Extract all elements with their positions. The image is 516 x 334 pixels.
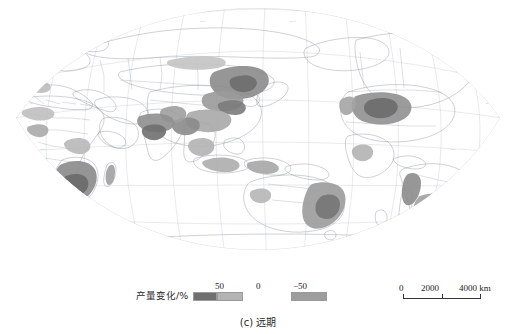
legend-swatch-loss — [291, 292, 327, 301]
svg-text:0°: 0° — [486, 102, 488, 105]
scalebar-tick-end — [480, 294, 481, 299]
svg-text:60°N: 60°N — [200, 20, 206, 23]
legend-tick-minus-50: −50 — [293, 281, 307, 291]
scalebar-label-2000: 2000 — [421, 283, 439, 293]
legend-tick-50: 50 — [215, 281, 224, 291]
legend-tick-0: 0 — [256, 281, 261, 291]
svg-text:30°S: 30°S — [40, 148, 46, 151]
svg-text:60°S: 60°S — [100, 226, 106, 229]
scalebar-label-4000km: 4000 km — [459, 283, 491, 293]
map-canvas: 60°N 60°N 60°N 60°N 0° 0° 30°S 30°S 60°S… — [0, 0, 516, 275]
svg-text:30°S: 30°S — [450, 148, 456, 151]
globe-outline — [16, 8, 500, 250]
legend-title: 产量变化/% — [136, 288, 188, 302]
data-regions — [22, 56, 459, 247]
scalebar-tick-mid — [442, 294, 443, 299]
svg-text:60°N: 60°N — [380, 26, 386, 29]
figure-caption: (c) 远期 — [0, 314, 516, 329]
graticule-parallels — [14, 9, 502, 255]
figure-panel: 60°N 60°N 60°N 60°N 0° 0° 30°S 30°S 60°S… — [0, 0, 516, 334]
svg-text:60°N: 60°N — [290, 20, 296, 23]
legend-swatch-gain-low — [217, 292, 243, 301]
map-scalebar: 0 2000 4000 km — [399, 283, 509, 305]
svg-text:0°: 0° — [30, 102, 32, 105]
map-legend: 产量变化/% 50 0 −50 — [136, 281, 316, 305]
legend-swatch-gain-high — [193, 292, 217, 301]
scalebar-label-0: 0 — [399, 283, 404, 293]
graticule-meridians — [14, 5, 510, 269]
svg-text:60°S: 60°S — [380, 226, 386, 229]
map-content: 60°N 60°N 60°N 60°N 0° 0° 30°S 30°S 60°S… — [14, 5, 510, 269]
world-map: 60°N 60°N 60°N 60°N 0° 0° 30°S 30°S 60°S… — [0, 0, 516, 275]
svg-text:60°N: 60°N — [110, 26, 116, 29]
scalebar-tick-0 — [403, 294, 404, 299]
